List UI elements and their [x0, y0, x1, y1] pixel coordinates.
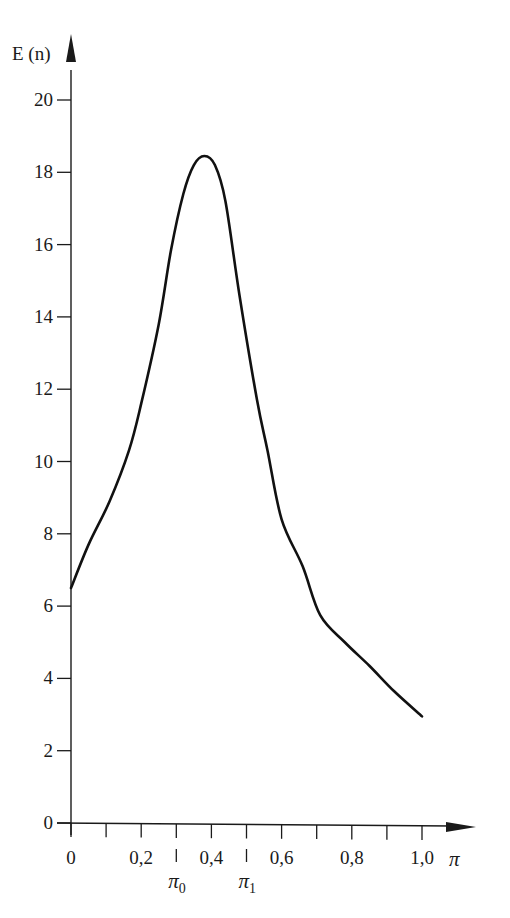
y-tick-label: 8: [44, 523, 54, 544]
x-tick-label: 0,6: [270, 847, 294, 868]
x-tick-label: 0,8: [340, 847, 364, 868]
data-series: [71, 156, 422, 716]
annotation-label: π0: [168, 869, 186, 896]
y-tick-label: 2: [44, 740, 54, 761]
x-tick-label: 1,0: [410, 847, 434, 868]
line-chart: E (n)02468101214161820 00,20,40,60,81,0π…: [0, 0, 510, 918]
series-line-E-n: [71, 156, 422, 716]
y-tick-label: 12: [34, 378, 53, 399]
y-axis: E (n)02468101214161820: [12, 34, 76, 835]
y-tick-label: 18: [34, 161, 53, 182]
y-tick-label: 20: [34, 89, 53, 110]
y-axis-title: E (n): [12, 43, 51, 65]
y-tick-label: 6: [44, 595, 54, 616]
annotation-label: π1: [239, 869, 257, 896]
y-tick-label: 4: [44, 667, 54, 688]
x-axis-arrow-icon: [446, 822, 476, 832]
y-axis-arrow-icon: [66, 34, 76, 62]
x-tick-label: 0,2: [129, 847, 153, 868]
x-axis-line: [57, 823, 452, 826]
x-tick-label: 0: [66, 847, 76, 868]
y-tick-label: 10: [34, 451, 53, 472]
y-tick-label: 16: [34, 234, 53, 255]
x-axis: 00,20,40,60,81,0π: [57, 822, 476, 871]
y-tick-label: 14: [34, 306, 54, 327]
x-tick-label: 0,4: [200, 847, 224, 868]
x-axis-title: π: [449, 847, 460, 871]
y-tick-label: 0: [44, 812, 54, 833]
